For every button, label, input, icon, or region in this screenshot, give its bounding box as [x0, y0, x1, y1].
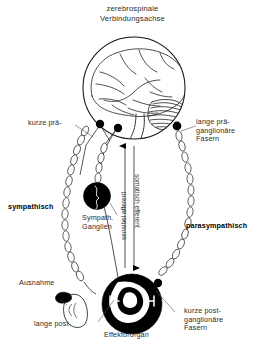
- label-lange-post: lange post-: [34, 320, 71, 329]
- chain-to-adrenal: [84, 282, 96, 294]
- label-effektororgan: Effektororgan: [104, 331, 149, 340]
- label-kurze-post: kurze post- ganglionäre Fasern: [184, 307, 223, 333]
- label-sympath-ganglien: Sympath. Ganglien: [82, 214, 114, 231]
- sympathetic-ganglion-node: [84, 183, 111, 210]
- cord-origin-dot-1: [96, 120, 104, 128]
- label-parasympathisch: parasympathisch: [186, 222, 247, 231]
- label-lange-prae: lange prä- ganglionäre Fasern: [196, 118, 235, 144]
- label-kurze-prae: kurze prä-: [28, 119, 62, 128]
- parasympathetic-origin-dot: [173, 122, 182, 131]
- diagram-canvas: [0, 0, 265, 348]
- vegetative-nervous-system-diagram: zerebrospinale Verbindungsachse kurze pr…: [0, 0, 265, 348]
- diagram-title: zerebrospinale Verbindungsachse: [0, 4, 265, 24]
- cord-origin-dot-2: [114, 124, 122, 132]
- label-sensibel-afferent: sensibel afferent: [120, 192, 127, 240]
- label-somatisch-efferent: somatisch efferent: [134, 174, 141, 228]
- parasympathetic-long-fiber: [157, 130, 194, 276]
- label-ausnahme: Ausnahme: [19, 279, 55, 288]
- label-sympathisch: sympathisch: [8, 203, 54, 212]
